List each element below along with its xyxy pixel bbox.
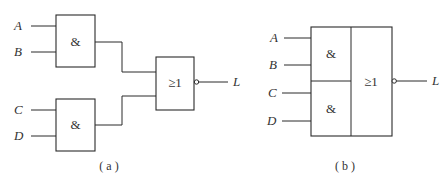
or-gate-symbol: ≥1 (168, 75, 182, 90)
label-input-d: D (13, 128, 24, 143)
caption-b: ( b ) (335, 159, 355, 173)
and-upper-symbol: & (326, 46, 336, 61)
label-input-d: D (266, 113, 277, 128)
label-input-c: C (268, 85, 277, 100)
wire-and1-to-or (95, 42, 156, 72)
label-input-a: A (269, 30, 278, 45)
or-symbol: ≥1 (364, 74, 378, 89)
and-lower-symbol: & (326, 101, 336, 116)
diagram-b: A B C D & & ≥1 L ( b ) (266, 27, 439, 173)
label-input-c: C (14, 102, 23, 117)
label-output: L (232, 74, 240, 89)
diagram-a: A B C D & & ≥1 L ( a ) (13, 15, 240, 173)
and-gate-2-symbol: & (70, 117, 80, 132)
label-input-b: B (14, 44, 22, 59)
and-gate-1-symbol: & (70, 34, 80, 49)
label-output: L (431, 73, 439, 88)
label-input-b: B (269, 57, 277, 72)
inversion-bubble (194, 80, 198, 84)
label-input-a: A (13, 18, 22, 33)
logic-diagram: A B C D & & ≥1 L ( a ) A B C D (0, 0, 448, 184)
inversion-bubble (392, 79, 396, 83)
wire-and2-to-or (95, 96, 156, 125)
caption-a: ( a ) (99, 159, 118, 173)
